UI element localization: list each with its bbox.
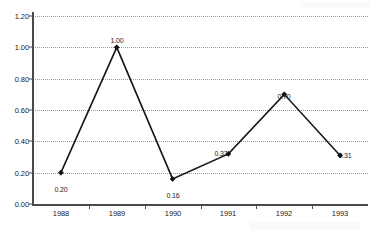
data-point-1989 [114, 45, 119, 50]
series-markers [58, 45, 342, 182]
point-label-1993: 0.31 [338, 152, 351, 159]
point-label-1991: 0.32 [214, 150, 227, 157]
data-point-1990 [170, 176, 175, 181]
data-point-1988 [58, 170, 63, 175]
point-label-1990: 0.16 [166, 192, 179, 199]
line-chart-figure: 1.20 1.00 0.80 0.60 0.40 0.20 0.00 1988 … [0, 0, 379, 236]
point-label-1988: 0.20 [54, 186, 67, 193]
point-label-1992: 0.70 [277, 93, 290, 100]
series-polyline [61, 47, 340, 179]
data-series-line [0, 0, 379, 236]
point-label-1989: 1.00 [110, 37, 123, 44]
